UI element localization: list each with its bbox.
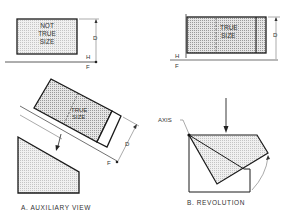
revolution-arc-arrow xyxy=(266,155,270,160)
not-true-size-line1: NOT xyxy=(40,22,54,29)
front-view-trapezoid xyxy=(18,137,79,193)
panel-a-top-view: NOT TRUE SIZE D H F xyxy=(5,19,99,70)
axis-leader xyxy=(180,120,189,134)
aux-dim-label-d: D xyxy=(125,141,130,147)
dim-point-a xyxy=(95,61,98,64)
aux-dim-point xyxy=(116,161,119,164)
technical-drawing: NOT TRUE SIZE D H F TRUE SIZE D F A. AUX… xyxy=(0,0,288,219)
aux-true-size-line1: TRUE xyxy=(71,107,87,113)
not-true-size-line2: TRUE xyxy=(38,30,56,37)
dim-arrow-b-top xyxy=(275,17,278,21)
caption-a: A. AUXILIARY VIEW xyxy=(21,204,91,211)
dim-arrow-a-top xyxy=(95,19,98,23)
revolution-view-arrowhead xyxy=(224,126,229,133)
fold-label-f-b: F xyxy=(175,63,179,69)
view-direction-arrow xyxy=(56,145,61,151)
aux-fold-label-f: F xyxy=(107,160,111,166)
aux-true-size-line2: SIZE xyxy=(72,114,85,120)
true-size-line2: SIZE xyxy=(221,32,236,39)
dim-label-d-a: D xyxy=(93,35,98,41)
caption-b: B. REVOLUTION xyxy=(187,199,245,206)
fold-label-h-b: H xyxy=(175,53,179,59)
true-size-line1: TRUE xyxy=(220,24,238,31)
panel-b-revolution-view: AXIS xyxy=(158,98,270,192)
panel-b-top-view: TRUE SIZE D H F xyxy=(170,14,280,69)
aux-dim-arrow xyxy=(133,124,137,129)
dim-label-d-b: D xyxy=(273,32,278,38)
fold-label-f-a: F xyxy=(86,64,90,70)
axis-label: AXIS xyxy=(158,117,172,123)
panel-a-front-view xyxy=(18,137,79,193)
fold-label-h-a: H xyxy=(86,54,90,60)
diagram-canvas: NOT TRUE SIZE D H F TRUE SIZE D F A. AUX… xyxy=(0,0,288,219)
view-direction-line xyxy=(58,134,61,146)
not-true-size-line3: SIZE xyxy=(40,38,55,45)
